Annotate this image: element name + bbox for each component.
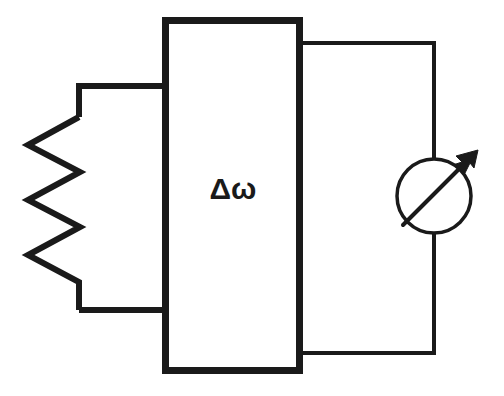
meter-gauge — [397, 150, 478, 233]
zigzag-resistor — [28, 86, 166, 310]
delta-omega-box: Δω — [166, 21, 300, 371]
delta-omega-box-label: Δω — [210, 172, 257, 205]
schematic-drawing: Δω — [0, 0, 504, 396]
diagram-canvas: Δω — [0, 0, 504, 396]
resistor-zigzag-body — [28, 117, 80, 310]
resistor-top-lead — [79, 86, 166, 117]
